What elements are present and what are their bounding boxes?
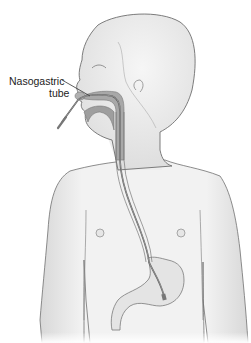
head [77, 14, 195, 170]
label-tube: tube [49, 87, 69, 99]
nasogastric-tube-illustration [0, 0, 251, 343]
left-nipple [96, 229, 104, 237]
label-nasogastric: Nasogastric [9, 75, 64, 87]
right-nipple [177, 229, 185, 237]
